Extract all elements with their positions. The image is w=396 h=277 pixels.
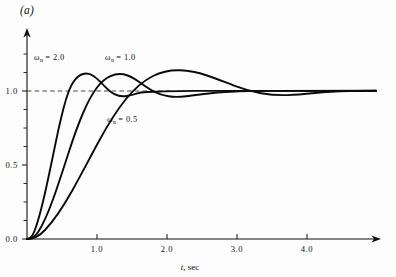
svg-text:ωn= 1.0: ωn= 1.0 (105, 53, 136, 63)
y-tick-label: 0.5 (5, 160, 18, 170)
svg-text:t, sec: t, sec (181, 262, 200, 272)
x-tick-label: 1.0 (91, 244, 104, 254)
y-axis (23, 28, 30, 239)
x-tick-label: 4.0 (301, 244, 314, 254)
x-axis (27, 235, 381, 242)
svg-text:ωn= 0.5: ωn= 0.5 (107, 115, 138, 125)
y-axis-tick-labels: 0.0 0.5 1.0 (5, 86, 18, 244)
annotation-omega-05-subscript: n (113, 119, 116, 125)
annotation-omega-1-value: = 1.0 (116, 53, 135, 62)
x-axis-title-rest: , sec (183, 262, 199, 272)
curve-omega-2 (27, 74, 376, 239)
y-tick-label: 1.0 (5, 86, 18, 96)
annotation-omega-05: ωn= 0.5 (107, 115, 138, 125)
annotation-omega-2: ωn= 2.0 (34, 53, 65, 63)
annotation-omega-2-value: = 2.0 (45, 53, 64, 62)
x-tick-label: 2.0 (161, 244, 174, 254)
x-axis-major-ticks (97, 234, 307, 239)
figure-panel: (a) (0, 0, 396, 277)
y-tick-label: 0.0 (5, 234, 18, 244)
annotation-omega-2-subscript: n (40, 57, 43, 63)
x-tick-label: 3.0 (231, 244, 244, 254)
x-axis-tick-labels: 1.0 2.0 3.0 4.0 (91, 244, 314, 254)
step-response-chart: 0.0 0.5 1.0 1.0 2.0 3.0 4.0 t, sec ωn= 2… (0, 0, 396, 277)
annotation-omega-05-value: = 0.5 (118, 115, 137, 124)
annotation-omega-1-subscript: n (111, 57, 114, 63)
svg-text:ωn= 2.0: ωn= 2.0 (34, 53, 65, 63)
curve-omega-1 (27, 74, 376, 239)
annotation-omega-1: ωn= 1.0 (105, 53, 136, 63)
curve-omega-05 (27, 70, 376, 239)
x-axis-title: t, sec (181, 262, 200, 272)
y-axis-major-ticks (22, 91, 27, 239)
